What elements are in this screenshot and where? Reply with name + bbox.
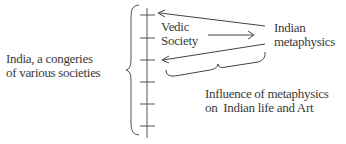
influence-brace — [166, 52, 265, 76]
india-label: India, a congeries of various societies — [6, 52, 100, 80]
vedic-society-label: Vedic Society — [161, 20, 198, 48]
indian-metaphysics-label: Indian metaphysics — [274, 21, 335, 49]
influence-label: Influence of metaphysics on Indian life … — [205, 87, 328, 115]
left-brace — [126, 5, 139, 135]
